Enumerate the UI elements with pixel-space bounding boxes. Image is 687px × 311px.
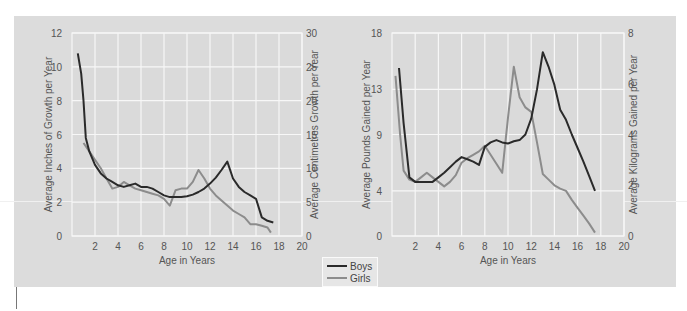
legend-label-girls: Girls [350,273,371,284]
y-axis-label: Average Pounds Gained per Year [361,59,372,208]
x-tick-label: 12 [204,241,216,252]
y-tick-label: 8 [56,96,62,107]
y-tick-label: 13 [371,84,383,95]
legend-swatch-boys [327,265,347,267]
x-tick-label: 16 [250,241,262,252]
y-tick-label: 4 [376,186,382,197]
y-tick-label: 18 [371,28,383,39]
y-tick-label: 6 [56,130,62,141]
y-axis-right-label: Average Centimetres Growth per Year [309,49,320,218]
x-tick-label: 2 [92,241,98,252]
x-tick-label: 4 [115,241,121,252]
x-tick-label: 16 [572,241,584,252]
x-tick-label: 18 [595,241,607,252]
x-tick-label: 20 [618,241,630,252]
x-tick-label: 12 [526,241,538,252]
x-axis-label: Age in Years [480,255,536,266]
x-tick-label: 18 [273,241,285,252]
x-tick-label: 8 [161,241,167,252]
x-tick-label: 6 [138,241,144,252]
y-right-tick-label: 0 [628,231,634,242]
x-tick-label: 14 [549,241,561,252]
x-tick-label: 8 [482,241,488,252]
x-tick-label: 20 [296,241,308,252]
x-tick-label: 10 [502,241,514,252]
y-tick-label: 2 [56,197,62,208]
x-tick-label: 6 [459,241,465,252]
y-tick-label: 9 [376,130,382,141]
y-tick-label: 4 [56,163,62,174]
x-tick-label: 14 [227,241,239,252]
legend-label-boys: Boys [350,261,372,272]
x-tick-label: 2 [412,241,418,252]
y-axis-label: Average Inches of Growth per Year [43,56,54,212]
x-axis-label: Age in Years [159,255,215,266]
x-tick-label: 10 [181,241,193,252]
y-tick-label: 12 [51,28,63,39]
legend-item-boys: Boys [327,260,372,272]
y-tick-label: 0 [56,231,62,242]
legend-item-girls: Girls [327,272,371,284]
y-tick-label: 0 [376,231,382,242]
legend-swatch-girls [327,277,347,279]
y-right-tick-label: 30 [306,28,318,39]
y-axis-right-label: Average Kilograms Gained per Year [628,54,639,214]
x-tick-label: 4 [436,241,442,252]
y-right-tick-label: 8 [628,28,634,39]
y-right-tick-label: 0 [306,231,312,242]
legend: Boys Girls [322,257,378,287]
